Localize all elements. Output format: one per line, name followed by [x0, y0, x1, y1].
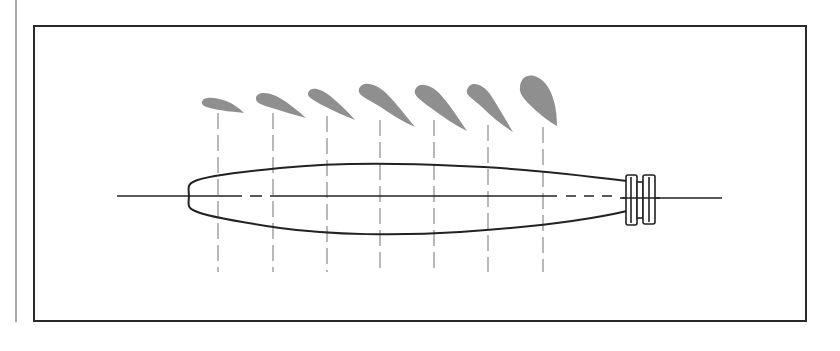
hub-neck	[637, 182, 643, 218]
airfoil-section-2	[256, 93, 306, 118]
airfoil-section-7	[520, 76, 557, 126]
airfoil-section-1	[202, 98, 244, 113]
airfoil-section-6	[467, 84, 513, 132]
blade-hub	[626, 175, 655, 225]
airfoil-section-5	[415, 85, 467, 131]
diagram-frame	[34, 26, 806, 321]
airfoil-section-3	[308, 89, 355, 120]
blade-planform-outline	[189, 164, 627, 234]
airfoil-section-4	[359, 84, 415, 127]
propeller-blade-diagram	[0, 0, 840, 351]
station-lines	[218, 113, 543, 272]
